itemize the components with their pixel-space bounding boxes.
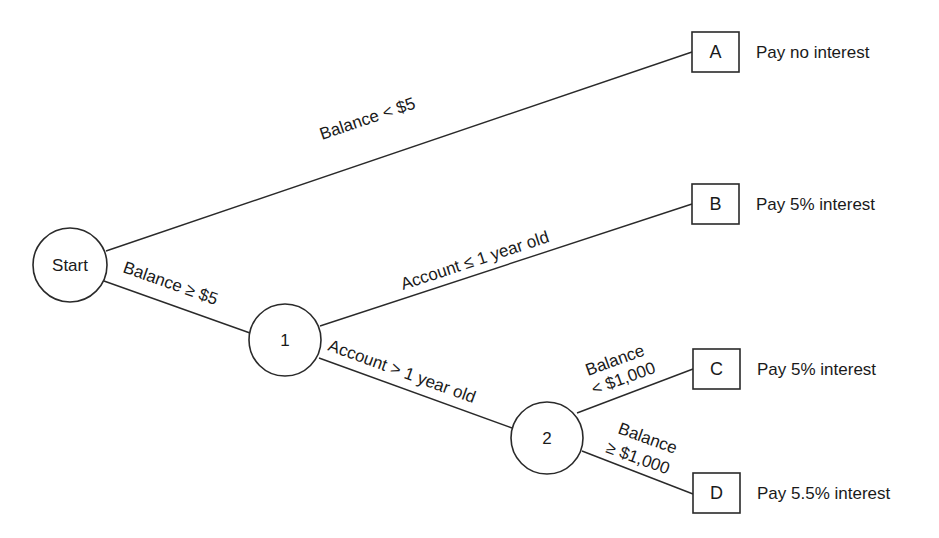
edge-label-balance-lt-1000: Balance < $1,000 bbox=[583, 341, 658, 399]
edge-1-to-b bbox=[320, 204, 692, 326]
edge-start-to-a bbox=[106, 52, 692, 251]
leaf-a-outcome: Pay no interest bbox=[756, 43, 870, 62]
leaf-b: B Pay 5% interest bbox=[692, 184, 875, 224]
leaf-d-outcome: Pay 5.5% interest bbox=[757, 484, 891, 503]
decision-tree-diagram: Balance < $5 Balance ≥ $5 Account ≤ 1 ye… bbox=[0, 0, 939, 538]
leaf-c: C Pay 5% interest bbox=[693, 349, 876, 389]
leaf-d: D Pay 5.5% interest bbox=[693, 473, 891, 513]
start-node: Start bbox=[33, 228, 107, 302]
leaf-c-letter: C bbox=[710, 359, 723, 379]
edge-label-balance-gte-1000: Balance ≥ $1,000 bbox=[604, 419, 680, 478]
decision-node-1-label: 1 bbox=[280, 331, 289, 350]
decision-node-2: 2 bbox=[511, 402, 583, 474]
start-node-label: Start bbox=[52, 256, 88, 275]
edge-label-account-gt-1yr: Account > 1 year old bbox=[326, 336, 479, 407]
leaf-a-letter: A bbox=[709, 42, 721, 62]
decision-node-1: 1 bbox=[249, 304, 321, 376]
edge-label-account-lte-1yr: Account ≤ 1 year old bbox=[398, 227, 551, 293]
edge-label-balance-lt-5: Balance < $5 bbox=[317, 94, 418, 144]
leaf-c-outcome: Pay 5% interest bbox=[757, 360, 876, 379]
leaf-a: A Pay no interest bbox=[692, 32, 870, 72]
edge-label-balance-gte-5: Balance ≥ $5 bbox=[121, 258, 221, 309]
decision-node-2-label: 2 bbox=[542, 429, 551, 448]
leaf-d-letter: D bbox=[710, 483, 723, 503]
leaf-b-outcome: Pay 5% interest bbox=[756, 195, 875, 214]
leaf-b-letter: B bbox=[709, 194, 721, 214]
